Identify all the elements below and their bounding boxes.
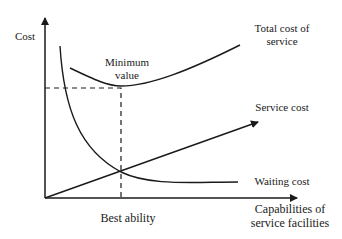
service-cost-line	[45, 122, 258, 198]
waiting-cost-label: Waiting cost	[254, 175, 309, 187]
service-cost-label: Service cost	[255, 101, 308, 113]
total-cost-label-1: Total cost of	[255, 22, 310, 34]
minimum-value-label-1: Minimum	[105, 56, 149, 68]
minimum-value-label-2: value	[115, 69, 139, 81]
total-cost-label-2: service	[266, 35, 297, 47]
total-cost-curve	[70, 45, 240, 86]
x-axis-label-2: service facilities	[251, 216, 330, 230]
best-ability-label: Best ability	[101, 211, 156, 225]
cost-diagram: Cost Minimum value Total cost of service…	[0, 0, 342, 239]
y-axis-label: Cost	[15, 30, 35, 42]
x-axis-label-1: Capabilities of	[255, 202, 325, 216]
minimum-guide-dashed	[45, 88, 121, 198]
